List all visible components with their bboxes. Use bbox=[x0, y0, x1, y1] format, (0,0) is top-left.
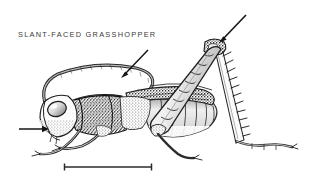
grasshopper-drawing bbox=[0, 0, 315, 181]
grasshopper-illustration-figure: SLANT-FACED GRASSHOPPER bbox=[0, 0, 315, 181]
figure-caption-label: SLANT-FACED GRASSHOPPER bbox=[18, 30, 156, 39]
